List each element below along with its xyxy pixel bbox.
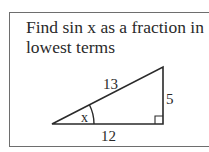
right-angle-marker-icon — [155, 116, 163, 124]
opposite-side-label: 5 — [166, 91, 174, 107]
angle-label: x — [81, 110, 88, 125]
adjacent-side-label: 12 — [101, 128, 116, 144]
angle-arc-icon — [90, 105, 95, 124]
hypotenuse-label: 13 — [103, 76, 118, 92]
right-triangle-figure: 13 5 12 x — [0, 0, 209, 152]
